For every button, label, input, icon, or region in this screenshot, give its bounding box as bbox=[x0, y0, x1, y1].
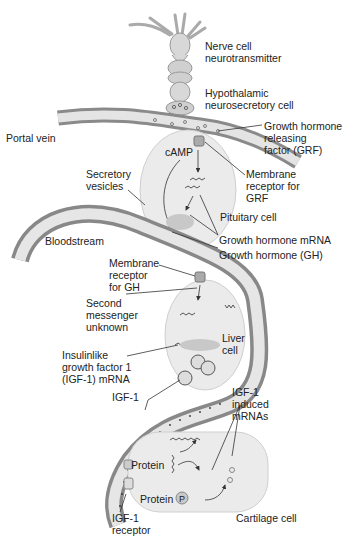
gh-receptor bbox=[195, 272, 205, 282]
pituitary-cell-label: Pituitary cell bbox=[220, 211, 277, 223]
nerve-cell-icon bbox=[130, 14, 205, 115]
cartilage-cell-label: Cartilage cell bbox=[236, 512, 297, 524]
portal-vein-label: Portal vein bbox=[6, 132, 56, 144]
igf1-receptor-label: IGF-1 receptor bbox=[112, 512, 151, 536]
gh-label: Growth hormone (GH) bbox=[219, 249, 323, 261]
phosphate-label: P bbox=[179, 493, 185, 505]
nerve-cell-label: Nerve cell neurotransmitter bbox=[205, 40, 281, 64]
camp-label: cAMP bbox=[165, 146, 193, 158]
grf-receptor bbox=[194, 136, 204, 146]
igf1-label: IGF-1 bbox=[112, 391, 139, 403]
protein-p-label: Protein bbox=[140, 493, 173, 505]
secretory-vesicles-label: Secretory vesicles bbox=[86, 168, 131, 192]
membrane-grf-label: Membrane receptor for GRF bbox=[246, 168, 300, 204]
membrane-gh-label: Membrane receptor for GH bbox=[109, 257, 159, 293]
igf1-mrna-label: Insulinlike growth factor 1 (IGF-1) mRNA bbox=[62, 349, 131, 385]
gh-mrna-label: Growth hormone mRNA bbox=[219, 234, 331, 246]
igf1-induced-label: IGF-1 induced mRNAs bbox=[232, 386, 269, 422]
liver-cell-label: Liver cell bbox=[222, 332, 245, 356]
protein-label: Protein bbox=[131, 459, 164, 471]
growth-hormone-diagram bbox=[0, 0, 354, 538]
grf-label: Growth hormone releasing factor (GRF) bbox=[264, 120, 342, 156]
second-messenger-label: Second messenger unknown bbox=[86, 297, 138, 333]
bloodstream-label: Bloodstream bbox=[45, 235, 104, 247]
hypothalamic-label: Hypothalamic neurosecretory cell bbox=[205, 87, 294, 111]
